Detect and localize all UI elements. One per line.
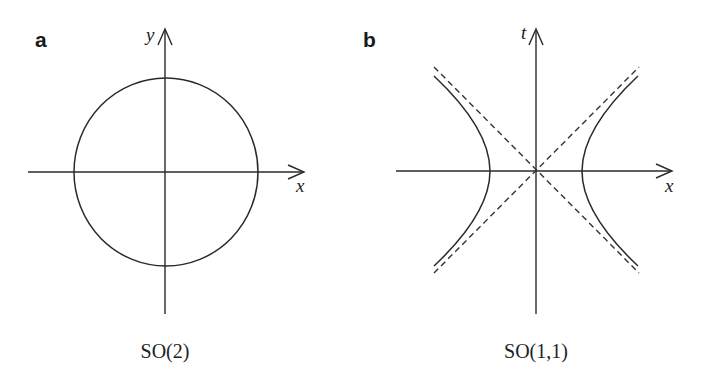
x-axis-label: x: [295, 175, 305, 196]
panel-b-label: b: [363, 28, 376, 51]
panel-b: b x t SO(1,1): [363, 22, 674, 363]
panel-b-caption: SO(1,1): [504, 340, 568, 363]
panel-a: a x y SO(2): [28, 24, 305, 363]
figure: a x y SO(2) b x t SO(1,1): [0, 0, 710, 382]
panel-a-caption: SO(2): [141, 340, 190, 363]
panel-a-label: a: [35, 28, 47, 51]
y-axis-label: y: [144, 24, 155, 45]
t-axis-label: t: [521, 22, 527, 43]
x-axis-label: x: [664, 175, 674, 196]
